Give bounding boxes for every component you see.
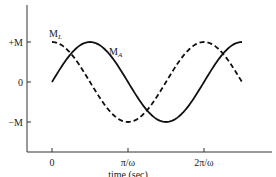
x-tick-label-pi: π/ω [121,157,136,168]
x-tick-label-2pi: 2π/ω [194,157,214,168]
series-m-l-line [52,42,242,122]
chart: +M 0 −M 0 π/ω 2π/ω time (sec) ML MA [0,0,276,177]
series-label-m-l: ML [49,28,62,41]
x-tick-label-zero: 0 [50,157,55,168]
x-axis-title: time (sec) [108,169,148,177]
y-tick-label-minus: −M [8,117,23,128]
y-tick-label-plus: +M [8,37,23,48]
y-tick-label-zero: 0 [18,77,23,88]
